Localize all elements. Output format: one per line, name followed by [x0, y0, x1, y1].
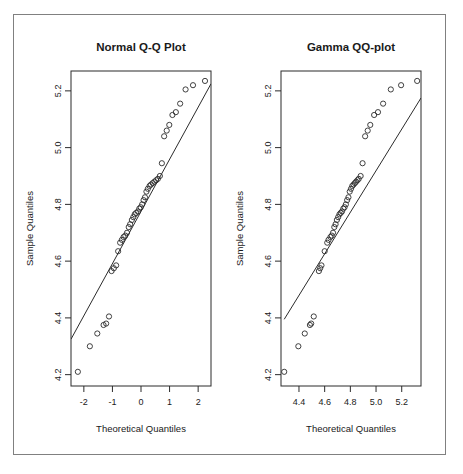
x-axis-label: Theoretical Quantiles: [96, 423, 186, 434]
data-point: [282, 369, 287, 374]
x-axis-tick-label: -1: [108, 397, 116, 407]
plot-normal-qq-plot: Normal Q-Q Plot4.24.44.64.85.05.2-2-1012…: [24, 41, 211, 434]
data-point: [375, 110, 380, 115]
plot-title: Gamma QQ-plot: [307, 41, 395, 53]
y-axis-tick-label: 5.2: [53, 85, 63, 98]
x-axis-tick-label: 4.6: [318, 397, 331, 407]
y-axis-tick-label: 4.6: [263, 255, 273, 268]
y-axis-tick-label: 4.4: [263, 312, 273, 325]
y-axis-tick-label: 5.2: [263, 85, 273, 98]
y-axis-label: Sample Quantiles: [234, 191, 245, 266]
data-point: [381, 101, 386, 106]
data-point: [87, 344, 92, 349]
x-axis-tick-label: 5.0: [370, 397, 383, 407]
plot-area: [282, 78, 421, 374]
y-axis-tick-label: 5.0: [53, 141, 63, 154]
y-axis-tick-label: 4.6: [53, 255, 63, 268]
plot-panel-border: [281, 71, 421, 386]
data-point: [368, 122, 373, 127]
data-point: [365, 128, 370, 133]
data-point: [296, 344, 301, 349]
data-point: [307, 322, 312, 327]
data-point: [183, 87, 188, 92]
y-axis-label: Sample Quantiles: [24, 191, 35, 266]
qq-reference-line: [71, 84, 211, 339]
data-point: [302, 331, 307, 336]
qq-reference-line: [284, 98, 421, 319]
qq-plots-figure: Normal Q-Q Plot4.24.44.64.85.05.2-2-1012…: [14, 15, 445, 454]
x-axis-tick-label: -2: [80, 397, 88, 407]
x-axis-tick-label: 2: [196, 397, 201, 407]
data-point: [164, 128, 169, 133]
data-point: [162, 134, 167, 139]
data-point: [415, 78, 420, 83]
data-point: [95, 331, 100, 336]
data-point: [106, 314, 111, 319]
plot-panel-border: [71, 71, 211, 386]
data-point: [159, 161, 164, 166]
x-axis-tick-label: 1: [167, 397, 172, 407]
data-point: [170, 112, 175, 117]
x-axis-tick-label: 5.2: [395, 397, 408, 407]
x-axis-tick-label: 0: [138, 397, 143, 407]
y-axis-tick-label: 4.8: [263, 198, 273, 211]
data-point: [360, 161, 365, 166]
data-point: [190, 83, 195, 88]
y-axis-tick-label: 4.2: [263, 368, 273, 381]
data-point: [202, 78, 207, 83]
data-point: [363, 134, 368, 139]
y-axis-tick-label: 4.8: [53, 198, 63, 211]
figure-frame: Normal Q-Q Plot4.24.44.64.85.05.2-2-1012…: [13, 14, 446, 455]
y-axis-tick-label: 5.0: [263, 141, 273, 154]
x-axis-tick-label: 4.8: [344, 397, 357, 407]
data-point: [178, 101, 183, 106]
data-point: [311, 314, 316, 319]
x-axis-tick-label: 4.4: [293, 397, 306, 407]
x-axis-label: Theoretical Quantiles: [306, 423, 396, 434]
data-point: [398, 83, 403, 88]
data-point: [309, 321, 314, 326]
plot-area: [71, 78, 211, 374]
data-point: [75, 369, 80, 374]
data-point: [388, 87, 393, 92]
data-point: [173, 110, 178, 115]
data-point: [167, 122, 172, 127]
plot-gamma-qq-plot: Gamma QQ-plot4.24.44.64.85.05.24.44.64.8…: [234, 41, 421, 434]
y-axis-tick-label: 4.2: [53, 368, 63, 381]
plot-title: Normal Q-Q Plot: [96, 41, 186, 53]
y-axis-tick-label: 4.4: [53, 312, 63, 325]
